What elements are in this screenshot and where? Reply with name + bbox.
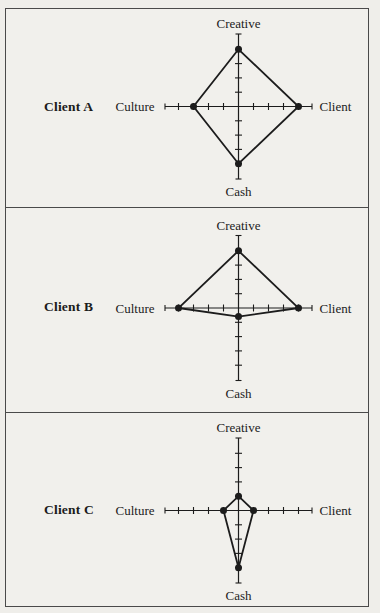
data-point-client [295, 305, 302, 312]
axis-label-culture: Culture [116, 503, 155, 518]
radar-chart-client-b: CreativeCashCultureClient [6, 208, 370, 413]
data-point-creative [235, 493, 242, 500]
radar-chart-client-c: CreativeCashCultureClient [6, 413, 370, 609]
axis-label-client: Client [320, 503, 352, 518]
data-point-cash [235, 313, 242, 320]
axis-label-client: Client [320, 99, 352, 114]
axis-label-creative: Creative [216, 16, 260, 31]
data-point-creative [235, 247, 242, 254]
scanned-page: Client A CreativeCashCultureClient Clien… [0, 0, 380, 613]
panel-client-c: Client C CreativeCashCultureClient [6, 412, 368, 608]
data-point-culture [175, 305, 182, 312]
data-point-culture [190, 103, 197, 110]
data-point-creative [235, 46, 242, 53]
axis-label-cash: Cash [226, 184, 253, 199]
data-point-client [295, 103, 302, 110]
radar-chart-client-a: CreativeCashCultureClient [6, 9, 370, 207]
panel-client-a: Client A CreativeCashCultureClient [6, 9, 368, 207]
axis-label-creative: Creative [216, 218, 260, 233]
data-point-culture [220, 507, 227, 514]
axis-label-cash: Cash [226, 386, 253, 401]
axis-label-creative: Creative [216, 420, 260, 435]
axis-label-client: Client [320, 301, 352, 316]
panel-client-b: Client B CreativeCashCultureClient [6, 207, 368, 412]
data-point-client [250, 507, 257, 514]
axis-label-culture: Culture [116, 99, 155, 114]
data-point-cash [235, 564, 242, 571]
figure-border: Client A CreativeCashCultureClient Clien… [5, 8, 369, 607]
data-point-cash [235, 160, 242, 167]
axis-label-cash: Cash [226, 588, 253, 603]
axis-label-culture: Culture [116, 301, 155, 316]
